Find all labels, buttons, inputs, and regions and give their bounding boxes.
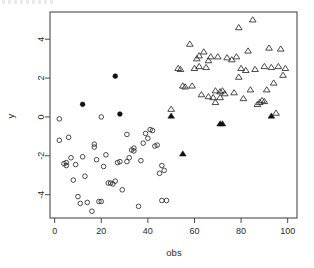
plot-border <box>50 12 297 218</box>
point-filled-circle <box>113 74 118 79</box>
point-open-triangle <box>247 87 254 92</box>
point-open-circle <box>66 135 71 140</box>
point-open-triangle <box>252 66 259 71</box>
point-open-circle <box>57 138 62 143</box>
point-open-circle <box>141 141 146 146</box>
point-open-circle <box>90 209 95 214</box>
point-open-circle <box>157 171 162 176</box>
point-open-triangle <box>275 63 282 68</box>
point-open-triangle <box>212 99 219 104</box>
point-open-triangle <box>214 54 221 59</box>
point-open-triangle <box>254 101 261 106</box>
point-open-circle <box>80 154 85 159</box>
point-open-triangle <box>191 65 198 70</box>
point-open-triangle <box>245 48 252 53</box>
x-tick-label: 20 <box>96 226 106 236</box>
point-open-triangle <box>266 45 273 50</box>
point-open-triangle <box>268 64 275 69</box>
point-open-circle <box>76 194 81 199</box>
plot-frame <box>50 12 297 218</box>
point-open-circle <box>136 204 141 209</box>
point-open-circle <box>143 131 148 136</box>
point-filled-triangle <box>168 113 175 118</box>
x-tick-label: 40 <box>143 226 153 236</box>
point-open-circle <box>127 155 132 160</box>
point-open-circle <box>71 178 76 183</box>
point-open-triangle <box>200 49 207 54</box>
x-axis-title: obs <box>166 247 182 258</box>
axes-layer: 020406080100-4-2024 <box>36 37 295 236</box>
point-open-circle <box>160 163 165 168</box>
scan-artifact <box>2 0 54 4</box>
point-filled-triangle <box>179 151 186 156</box>
point-open-triangle <box>261 63 268 68</box>
point-open-circle <box>57 117 62 122</box>
point-open-triangle <box>270 80 277 85</box>
point-open-circle <box>104 153 109 158</box>
point-open-triangle <box>196 63 203 68</box>
point-open-triangle <box>231 90 238 95</box>
point-open-triangle <box>273 110 280 115</box>
point-open-triangle <box>168 106 175 111</box>
y-axis-title: y <box>5 113 16 118</box>
series-open-circle <box>57 115 169 214</box>
x-tick-label: 60 <box>189 226 199 236</box>
y-tick-label: -2 <box>36 152 46 160</box>
point-open-triangle <box>198 92 205 97</box>
point-open-triangle <box>205 58 212 63</box>
point-open-triangle <box>186 41 193 46</box>
point-open-circle <box>120 188 125 193</box>
point-open-triangle <box>203 64 210 69</box>
series-open-triangle <box>168 17 289 115</box>
point-open-circle <box>85 200 90 205</box>
point-open-triangle <box>224 55 231 60</box>
point-open-triangle <box>280 72 287 77</box>
point-open-circle <box>92 145 97 150</box>
point-open-triangle <box>189 83 196 88</box>
marker-layer <box>57 17 289 214</box>
point-open-triangle <box>263 87 270 92</box>
series-filled-circle <box>80 74 122 117</box>
figure-root: 020406080100-4-2024 obs y <box>0 0 314 268</box>
point-open-circle <box>83 174 88 179</box>
point-open-circle <box>78 201 83 206</box>
x-tick-label: 80 <box>236 226 246 236</box>
y-tick-label: -4 <box>36 191 46 199</box>
y-tick-label: 0 <box>36 114 46 119</box>
point-open-circle <box>69 155 74 160</box>
point-open-circle <box>164 198 169 203</box>
series-filled-triangle <box>168 113 275 156</box>
point-open-circle <box>99 115 104 120</box>
point-open-circle <box>101 164 106 169</box>
point-open-triangle <box>277 46 284 51</box>
point-open-circle <box>73 162 78 167</box>
point-open-triangle <box>242 67 249 72</box>
point-filled-circle <box>80 102 85 107</box>
point-open-circle <box>139 158 144 163</box>
point-open-triangle <box>233 54 240 59</box>
point-open-circle <box>160 198 165 203</box>
point-open-circle <box>94 157 99 162</box>
scatter-plot: 020406080100-4-2024 obs y <box>0 0 314 268</box>
point-open-triangle <box>240 95 247 100</box>
point-open-triangle <box>235 74 242 79</box>
point-open-triangle <box>282 65 289 70</box>
point-open-triangle <box>217 94 224 99</box>
point-open-triangle <box>238 65 245 70</box>
point-open-circle <box>146 136 151 141</box>
x-tick-label: 0 <box>52 226 57 236</box>
point-open-triangle <box>235 25 242 30</box>
y-tick-label: 2 <box>36 76 46 81</box>
x-tick-label: 100 <box>280 226 295 236</box>
point-filled-circle <box>118 112 123 117</box>
point-open-circle <box>125 132 130 137</box>
point-open-triangle <box>249 17 256 22</box>
y-tick-label: 4 <box>36 37 46 42</box>
point-open-circle <box>162 168 167 173</box>
